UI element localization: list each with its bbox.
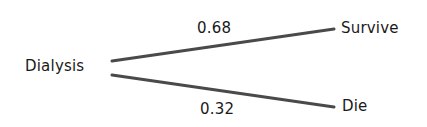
root-node-label: Dialysis	[25, 57, 84, 75]
branch-probability-survive: 0.68	[197, 19, 231, 37]
branch-probability-die: 0.32	[200, 100, 234, 118]
decision-tree-diagram: Dialysis 0.68 0.32 Survive Die	[0, 0, 427, 127]
outcome-label-die: Die	[342, 97, 368, 115]
outcome-label-survive: Survive	[341, 19, 399, 37]
